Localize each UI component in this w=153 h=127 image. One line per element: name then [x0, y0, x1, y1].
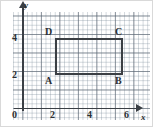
y-tick-label-4: 4 [12, 33, 17, 43]
rectangle-shape [55, 38, 124, 75]
x-tick-label-4: 4 [87, 110, 92, 120]
x-axis-line [14, 108, 138, 110]
origin-tick-label: 0 [12, 110, 17, 120]
vertex-label-a: A [45, 76, 52, 86]
x-axis-label: x [141, 113, 146, 122]
vertex-label-d: D [45, 27, 52, 37]
vertex-label-c: C [115, 27, 122, 37]
vertex-label-b: B [115, 76, 122, 86]
coordinate-grid-figure: y x 0 2 4 2 4 6 D C A B [0, 0, 153, 127]
x-tick-label-2: 2 [50, 110, 55, 120]
y-axis-label: y [24, 1, 28, 10]
x-tick-label-6: 6 [124, 110, 129, 120]
y-tick-label-2: 2 [12, 70, 17, 80]
y-axis-line [22, 6, 24, 111]
